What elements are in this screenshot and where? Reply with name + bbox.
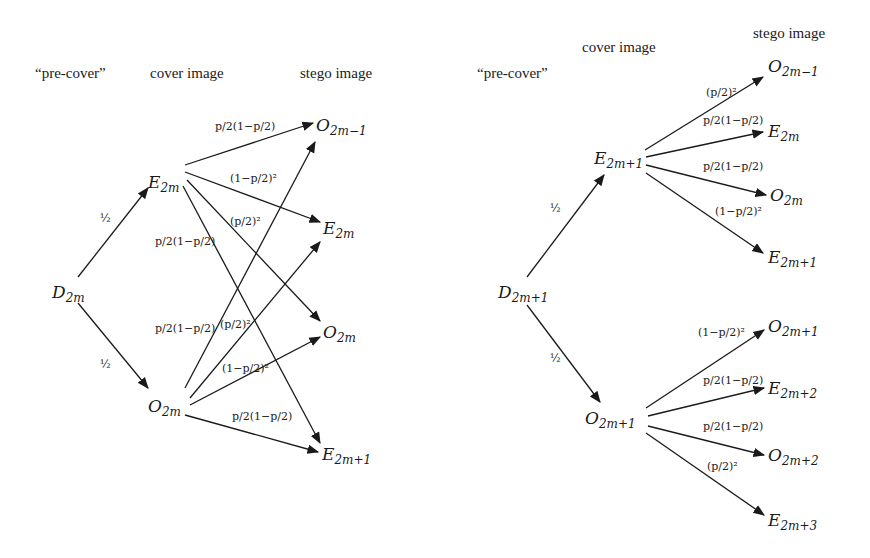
edge-o2m+1-e2m+3: [646, 433, 764, 515]
edge-o2m+1-o2m+1: [646, 330, 764, 408]
label-o2m-o2m-1: p/2(1−p/2): [155, 322, 215, 335]
node-e2m+1-stego-right: E2m+1: [767, 247, 817, 270]
node-e2m-stego: E2m: [322, 218, 354, 241]
node-e2m+1-stego: E2m+1: [321, 444, 371, 467]
edge-o2m+1-e2m+2: [648, 388, 764, 416]
node-o2m-cover: O2m: [148, 396, 181, 419]
header-cover-image-right: cover image: [582, 39, 656, 55]
edge-e2m-o2m: [187, 180, 320, 321]
header-cover-image: cover image: [150, 65, 224, 81]
label-d2m-e2m: ½: [100, 212, 111, 225]
node-o2m+1-cover: O2m+1: [585, 408, 636, 431]
label-e2m+1-e2m: p/2(1−p/2): [703, 114, 763, 127]
node-d2m+1: D2m+1: [497, 282, 548, 305]
node-o2m+2-stego-right: O2m+2: [768, 445, 819, 468]
label-d2m+1-e2m+1: ½: [550, 202, 561, 215]
node-e2m-cover: E2m: [147, 172, 179, 195]
label-e2m-o2m: (p/2)²: [230, 215, 261, 228]
header-pre-cover-right: “pre-cover”: [477, 65, 548, 81]
left-diagram: “pre-cover” cover image stego image D2m …: [35, 65, 372, 467]
label-o2m+1-o2m+1: (1−p/2)²: [698, 326, 745, 339]
label-e2m+1-e2m+1: (1−p/2)²: [715, 205, 762, 218]
label-e2m-e2m+1: p/2(1−p/2): [155, 235, 215, 248]
label-o2m+1-e2m+2: p/2(1−p/2): [703, 374, 763, 387]
node-o2m+1-stego-right: O2m+1: [768, 316, 819, 339]
label-o2m-o2m: (1−p/2)²: [222, 362, 269, 375]
node-o2m-stego: O2m: [323, 322, 356, 345]
label-d2m+1-o2m+1: ½: [550, 352, 561, 365]
steganography-transition-diagrams: “pre-cover” cover image stego image D2m …: [0, 0, 870, 558]
node-e2m+3-stego-right: E2m+3: [767, 510, 817, 533]
edge-d2m-o2m: [78, 303, 148, 388]
label-e2m+1-o2m: p/2(1−p/2): [703, 160, 763, 173]
node-e2m+2-stego-right: E2m+2: [767, 378, 817, 401]
header-stego-image: stego image: [300, 65, 372, 81]
edge-d2m+1-e2m+1: [527, 175, 604, 277]
edge-d2m+1-o2m+1: [527, 305, 600, 402]
label-o2m+1-o2m+2: p/2(1−p/2): [703, 420, 763, 433]
right-diagram: “pre-cover” cover image stego image D2m+…: [477, 25, 825, 533]
label-e2m-o2m-1: p/2(1−p/2): [215, 120, 275, 133]
label-o2m+1-e2m+3: (p/2)²: [707, 460, 738, 473]
label-d2m-o2m: ½: [100, 358, 111, 371]
node-o2m-1-stego: O2m−1: [316, 115, 367, 138]
node-e2m-stego-right: E2m: [767, 121, 799, 144]
node-d2m: D2m: [51, 282, 85, 305]
label-o2m-e2m: (p/2)²: [220, 318, 251, 331]
label-o2m-e2m+1: p/2(1−p/2): [232, 410, 292, 423]
node-e2m+1-cover: E2m+1: [593, 148, 643, 171]
header-pre-cover: “pre-cover”: [35, 65, 106, 81]
node-o2m-1-stego-right: O2m−1: [768, 56, 819, 79]
label-e2m-e2m: (1−p/2)²: [230, 172, 277, 185]
label-e2m+1-o2m-1: (p/2)²: [706, 86, 737, 99]
edge-d2m-e2m: [78, 188, 148, 277]
header-stego-image-right: stego image: [753, 25, 825, 41]
node-o2m-stego-right: O2m: [770, 185, 803, 208]
edge-e2m+1-e2m: [646, 132, 763, 157]
